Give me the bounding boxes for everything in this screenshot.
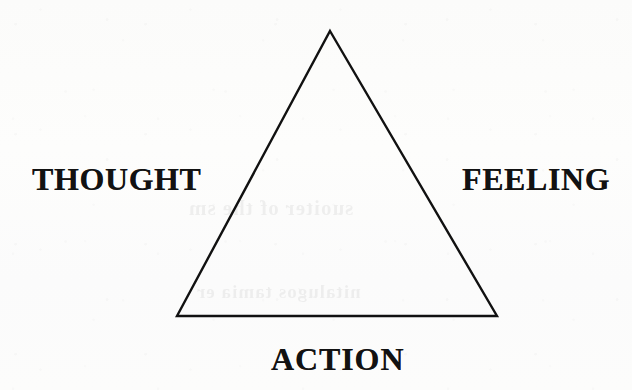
scanned-page: suoiter of the sm nitalugos tamia er THO… [0, 0, 632, 390]
triangle-label-feeling: FEELING [462, 163, 610, 195]
triangle-outline [177, 31, 497, 316]
triangle-label-thought: THOUGHT [32, 163, 202, 195]
triangle-label-action: ACTION [271, 343, 404, 375]
